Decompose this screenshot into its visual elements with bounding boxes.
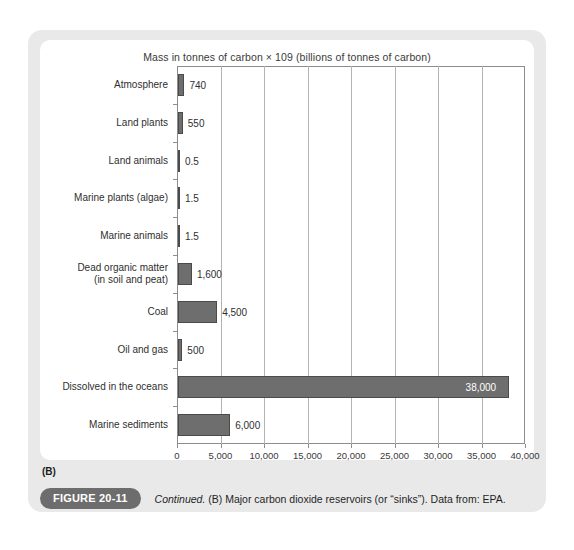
bar [178,112,183,134]
x-tick-label: 15,000 [293,450,322,461]
bar-row: Dissolved in the oceans38,000 [177,376,525,398]
bar [178,339,182,361]
x-tick-label: 10,000 [249,450,278,461]
category-label: Marine plants (algae) [45,192,177,204]
x-tick [308,444,309,448]
bar-value-label: 38,000 [466,382,497,393]
y-tick [173,104,177,105]
bar-row: Dead organic matter (in soil and peat)1,… [177,263,525,285]
y-tick [173,142,177,143]
y-tick [173,179,177,180]
x-tick-label: 0 [174,450,179,461]
category-label: Oil and gas [45,344,177,356]
x-tick [221,444,222,448]
bar [178,376,509,398]
x-tick-label: 35,000 [467,450,496,461]
x-tick-label: 30,000 [423,450,452,461]
bar-row: Marine animals1.5 [177,225,525,247]
category-label: Land plants [45,117,177,129]
y-tick [173,293,177,294]
x-tick [395,444,396,448]
x-tick [438,444,439,448]
bar [178,150,180,172]
x-tick [525,444,526,448]
bar-value-label: 0.5 [185,155,199,166]
bar [178,74,184,96]
bar-row: Marine plants (algae)1.5 [177,187,525,209]
bar-value-label: 500 [187,344,204,355]
bar-row: Marine sediments6,000 [177,414,525,436]
figure-panel: Mass in tonnes of carbon × 109 (billions… [28,30,546,512]
bar-value-label: 6,000 [235,420,260,431]
bar-row: Oil and gas500 [177,339,525,361]
category-label: Coal [45,306,177,318]
x-tick-label: 40,000 [510,450,539,461]
bar [178,225,180,247]
x-tick [264,444,265,448]
figure-number-badge: FIGURE 20-11 [40,488,141,509]
y-tick [173,255,177,256]
bar-row: Land plants550 [177,112,525,134]
bar-row: Atmosphere740 [177,74,525,96]
bar-value-label: 4,500 [222,306,247,317]
category-label: Atmosphere [45,79,177,91]
x-tick [351,444,352,448]
bar-value-label: 1.5 [185,231,199,242]
caption-body: (B) Major carbon dioxide reservoirs (or … [208,493,505,505]
bar-value-label: 1.5 [185,193,199,204]
bar-row: Coal4,500 [177,301,525,323]
bar [178,263,192,285]
bar [178,187,180,209]
y-tick [173,406,177,407]
bar-row: Land animals0.5 [177,150,525,172]
bar [178,301,217,323]
category-label: Dissolved in the oceans [45,381,177,393]
category-label: Dead organic matter (in soil and peat) [45,262,177,286]
bar-chart-plot-area: 05,00010,00015,00020,00025,00030,00035,0… [177,66,525,444]
panel-letter: (B) [42,466,56,477]
bar-value-label: 1,600 [197,268,222,279]
chart-title: Mass in tonnes of carbon × 109 (billions… [40,51,534,63]
caption-text: Continued. (B) Major carbon dioxide rese… [155,492,506,506]
chart-card: Mass in tonnes of carbon × 109 (billions… [40,40,534,460]
category-label: Land animals [45,155,177,167]
bar-value-label: 740 [189,79,206,90]
bar [178,414,230,436]
bar-value-label: 550 [188,117,205,128]
category-label: Marine animals [45,230,177,242]
x-tick [177,444,178,448]
category-label: Marine sediments [45,419,177,431]
caption-continued: Continued. [155,493,206,505]
x-tick [482,444,483,448]
figure-caption: FIGURE 20-11 Continued. (B) Major carbon… [40,488,536,509]
x-tick-label: 25,000 [380,450,409,461]
x-tick-label: 20,000 [336,450,365,461]
y-tick [173,217,177,218]
x-tick-label: 5,000 [209,450,233,461]
y-tick [173,368,177,369]
y-tick [173,331,177,332]
